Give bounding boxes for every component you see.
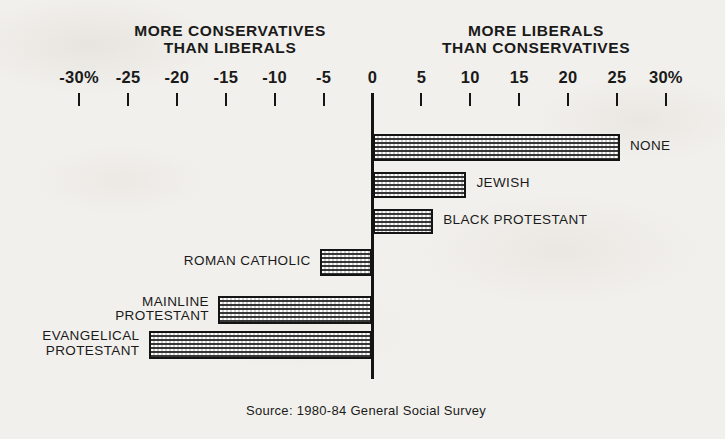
x-axis-tick-mark [616, 93, 618, 106]
x-axis-tick-label: 20 [559, 68, 578, 87]
bar-roman-catholic [320, 249, 373, 276]
bar-label-line: JEWISH [476, 176, 529, 191]
x-axis-tick-mark [225, 93, 227, 106]
bar-label-black-protestant: BLACK PROTESTANT [443, 213, 587, 228]
x-axis-tick-mark [665, 93, 667, 106]
x-axis-tick-label: 0 [368, 68, 377, 87]
bar-chart: MORE CONSERVATIVES THAN LIBERALS MORE LI… [0, 0, 725, 439]
x-axis-tick-label: 25 [608, 68, 627, 87]
bar-none [373, 134, 620, 161]
x-axis-tick-label: -30% [59, 68, 99, 87]
x-axis-tick-label: -5 [316, 68, 331, 87]
bar-label-jewish: JEWISH [476, 176, 529, 191]
header-right: MORE LIBERALS THAN CONSERVATIVES [442, 22, 630, 56]
x-axis-tick-mark [127, 93, 129, 106]
x-axis-tick-mark [323, 93, 325, 106]
bar-label-roman-catholic: ROMAN CATHOLIC [184, 254, 311, 269]
bar-mainline-protestant [218, 296, 373, 324]
x-axis-tick-mark [274, 93, 276, 106]
x-axis-tick-mark [469, 93, 471, 106]
header-left-line1: MORE CONSERVATIVES [134, 22, 326, 39]
bar-evangelical-protestant [149, 331, 373, 359]
bar-black-protestant [373, 209, 434, 234]
x-axis-tick-mark [567, 93, 569, 106]
source-note: Source: 1980-84 General Social Survey [246, 403, 486, 418]
x-axis-tick-label: -20 [165, 68, 190, 87]
x-axis-tick-mark [176, 93, 178, 106]
x-axis-tick-label: -25 [116, 68, 141, 87]
x-axis-tick-label: 10 [461, 68, 480, 87]
x-axis-tick-mark [420, 93, 422, 106]
bar-label-mainline-protestant: MAINLINEPROTESTANT [115, 295, 209, 324]
bar-label-line: EVANGELICAL [42, 329, 139, 344]
bar-label-line: PROTESTANT [115, 309, 209, 324]
x-axis-tick-mark [78, 93, 80, 106]
x-axis-tick-label: -15 [213, 68, 238, 87]
x-axis-tick-mark [518, 93, 520, 106]
bar-label-line: PROTESTANT [42, 344, 139, 359]
header-right-line1: MORE LIBERALS [442, 22, 630, 39]
bar-jewish [373, 172, 467, 198]
x-axis-tick-label: 15 [510, 68, 529, 87]
x-axis-tick-label: 5 [417, 68, 426, 87]
bar-label-none: NONE [630, 139, 671, 154]
header-right-line2: THAN CONSERVATIVES [442, 39, 630, 56]
bar-label-evangelical-protestant: EVANGELICALPROTESTANT [42, 329, 139, 358]
x-axis-tick-label: 30% [649, 68, 683, 87]
bar-label-line: NONE [630, 139, 671, 154]
header-left: MORE CONSERVATIVES THAN LIBERALS [134, 22, 326, 56]
header-left-line2: THAN LIBERALS [134, 39, 326, 56]
x-axis-tick-label: -10 [262, 68, 287, 87]
bar-label-line: MAINLINE [115, 295, 209, 310]
bar-label-line: ROMAN CATHOLIC [184, 254, 311, 269]
bar-label-line: BLACK PROTESTANT [443, 213, 587, 228]
